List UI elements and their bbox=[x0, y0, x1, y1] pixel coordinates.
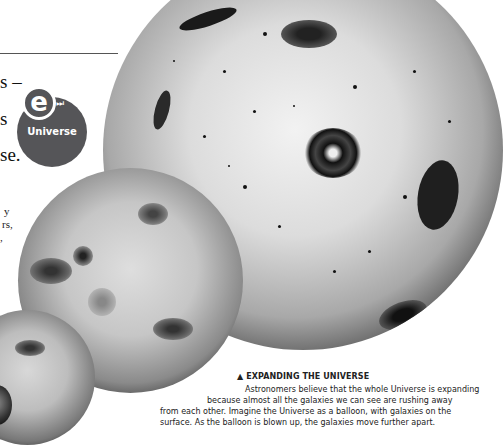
fuzzy-galaxy bbox=[30, 258, 72, 284]
star bbox=[403, 195, 407, 199]
star bbox=[228, 165, 230, 167]
edge-on-galaxy bbox=[177, 3, 238, 35]
star bbox=[173, 60, 175, 62]
caption-line: Astronomers believe that the whole Unive… bbox=[160, 384, 436, 395]
body-text-fragment: s – bbox=[0, 72, 22, 91]
lower-galaxy bbox=[375, 294, 431, 336]
star bbox=[448, 120, 451, 123]
figure-caption: ▲ EXPANDING THE UNIVERSE Astronomers bel… bbox=[160, 372, 436, 428]
star bbox=[353, 85, 357, 89]
side-text-fragment: , bbox=[0, 232, 3, 243]
star bbox=[243, 185, 247, 189]
body-text-fragment: se. bbox=[0, 145, 21, 164]
caption-line: from each other. Imagine the Universe as… bbox=[160, 406, 436, 417]
section-divider bbox=[0, 53, 118, 54]
left-galaxy bbox=[150, 89, 174, 131]
side-text-fragment: rs, bbox=[2, 219, 13, 230]
star bbox=[263, 32, 267, 36]
e-link-logo-icon[interactable]: e bbox=[22, 86, 56, 120]
fuzzy-galaxy bbox=[153, 318, 193, 340]
star bbox=[203, 135, 206, 138]
star bbox=[368, 250, 371, 253]
triangle-marker-icon: ▲ bbox=[237, 372, 243, 381]
caption-line: surface. As the balloon is blown up, the… bbox=[160, 417, 436, 428]
fuzzy-galaxy bbox=[15, 340, 45, 356]
star bbox=[293, 105, 295, 107]
star bbox=[278, 225, 281, 228]
edge-galaxy-right bbox=[412, 157, 464, 233]
caption-title-text: EXPANDING THE UNIVERSE bbox=[246, 372, 369, 381]
e-link-label[interactable]: Universe bbox=[17, 126, 87, 137]
caption-title: ▲ EXPANDING THE UNIVERSE bbox=[160, 372, 436, 381]
fast-forward-icon: ⏭ bbox=[56, 98, 62, 109]
star bbox=[413, 70, 416, 73]
side-text-fragment: y bbox=[4, 206, 10, 217]
fuzzy-galaxy bbox=[138, 203, 168, 225]
fuzzy-galaxy bbox=[88, 288, 116, 316]
elliptical-galaxy bbox=[281, 20, 337, 48]
star bbox=[223, 70, 226, 73]
star bbox=[253, 110, 256, 113]
caption-line: because almost all the galaxies we can s… bbox=[160, 395, 436, 406]
star bbox=[333, 270, 336, 273]
fuzzy-galaxy bbox=[73, 246, 93, 266]
body-text-fragment: s bbox=[0, 109, 7, 128]
spiral-galaxy bbox=[303, 128, 363, 178]
